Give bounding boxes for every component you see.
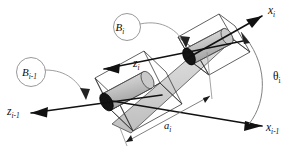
label-axis-z-i-minus-1: zi-1 bbox=[6, 105, 20, 120]
label-angle-theta-i: θi bbox=[273, 70, 281, 85]
dh-link-diagram: xi xi-1 zi zi-1 Bi Bi-1 θi ai bbox=[0, 0, 305, 157]
figure-root: xi xi-1 zi zi-1 Bi Bi-1 θi ai bbox=[0, 0, 305, 157]
label-axis-x-i: xi bbox=[267, 4, 275, 19]
theta-angle-arc bbox=[241, 32, 262, 124]
label-axis-x-i-minus-1: xi-1 bbox=[265, 121, 279, 136]
label-length-a-i: ai bbox=[164, 120, 171, 134]
balloon-b-i-minus-1 bbox=[17, 58, 91, 101]
balloon-b-i bbox=[114, 14, 191, 49]
